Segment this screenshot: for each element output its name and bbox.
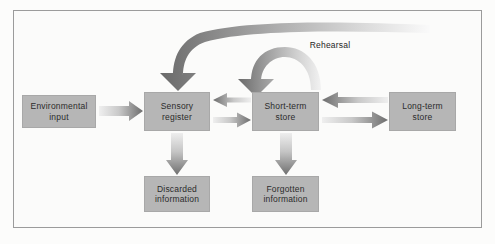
arrow-shortterm-to-sensory bbox=[213, 93, 251, 107]
node-sensory-register-label: Sensoryregister bbox=[159, 101, 196, 122]
node-discarded-information-label: Discardedinformation bbox=[153, 184, 201, 205]
memory-model-figure: Rehearsal Environmentalinput Sensoryregi… bbox=[0, 0, 495, 244]
node-environmental-input-label: Environmentalinput bbox=[29, 101, 90, 122]
node-forgotten-information: Forgotteninformation bbox=[252, 176, 319, 212]
arrow-shortterm-to-longterm bbox=[322, 112, 388, 129]
rehearsal-label: Rehearsal bbox=[285, 40, 375, 50]
arrow-longterm-to-shortterm bbox=[322, 92, 388, 108]
node-sensory-register: Sensoryregister bbox=[144, 92, 210, 131]
arrow-sensory-to-discarded bbox=[166, 133, 188, 175]
node-long-term-store-label: Long-termstore bbox=[400, 101, 445, 122]
node-long-term-store: Long-termstore bbox=[389, 92, 456, 131]
arrow-environmental-to-sensory bbox=[99, 101, 143, 121]
arrow-sensory-to-shortterm bbox=[213, 113, 251, 128]
node-forgotten-information-label: Forgotteninformation bbox=[261, 184, 309, 205]
node-short-term-store: Short-termstore bbox=[252, 92, 319, 131]
node-short-term-store-label: Short-termstore bbox=[262, 101, 308, 122]
arrow-shortterm-to-forgotten bbox=[275, 133, 297, 175]
arrow-rehearsal-loop bbox=[238, 47, 321, 97]
node-environmental-input: Environmentalinput bbox=[22, 95, 96, 128]
node-discarded-information: Discardedinformation bbox=[144, 176, 210, 212]
